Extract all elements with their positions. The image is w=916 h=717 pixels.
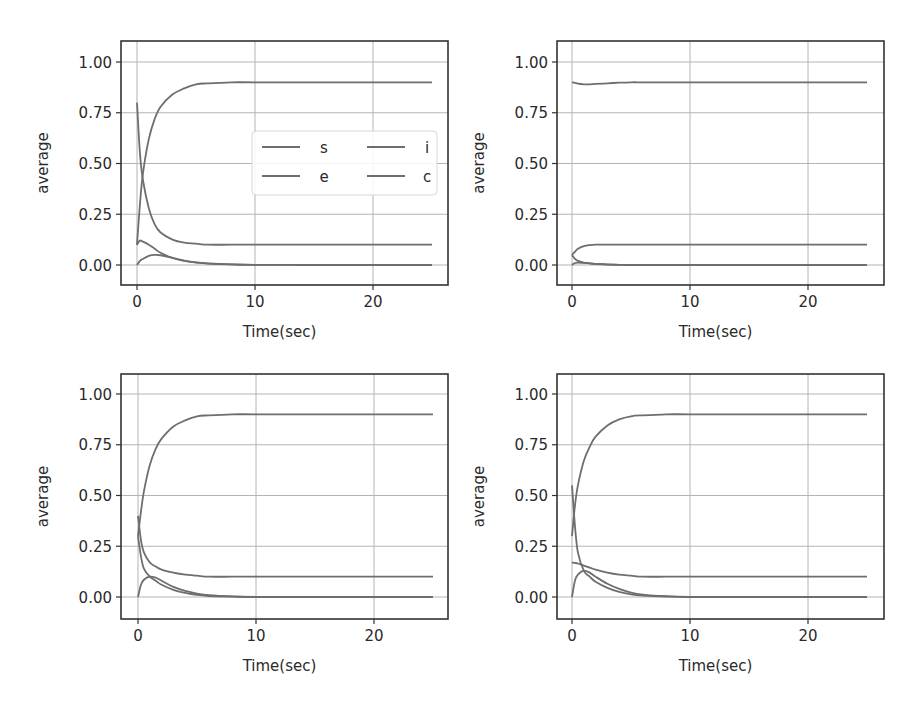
y-axis-label: average bbox=[470, 132, 488, 193]
y-tick-label: 0.75 bbox=[79, 436, 112, 454]
x-tick-label: 0 bbox=[133, 627, 143, 645]
y-tick-label: 0.50 bbox=[79, 155, 112, 173]
y-axis-label: average bbox=[34, 132, 52, 193]
y-tick-label: 1.00 bbox=[515, 54, 548, 72]
x-tick-label: 10 bbox=[245, 293, 264, 311]
y-tick-label: 1.00 bbox=[79, 54, 112, 72]
x-tick-label: 10 bbox=[246, 627, 265, 645]
y-tick-label: 1.00 bbox=[79, 386, 112, 404]
x-axis-label: Time(sec) bbox=[678, 657, 753, 675]
x-tick-label: 20 bbox=[798, 627, 817, 645]
x-tick-label: 10 bbox=[680, 627, 699, 645]
y-tick-label: 0.25 bbox=[515, 206, 548, 224]
x-tick-label: 0 bbox=[567, 293, 577, 311]
x-tick-label: 0 bbox=[567, 627, 577, 645]
y-axis-label: average bbox=[470, 466, 488, 527]
legend-label-i: i bbox=[425, 139, 429, 157]
figure: 010200.000.250.500.751.00Time(sec)averag… bbox=[0, 0, 916, 717]
x-tick-label: 0 bbox=[132, 293, 142, 311]
x-axis-label: Time(sec) bbox=[678, 323, 753, 341]
x-axis-label: Time(sec) bbox=[242, 657, 317, 675]
legend-box bbox=[252, 131, 437, 195]
y-axis-label: average bbox=[34, 466, 52, 527]
legend: siec bbox=[252, 131, 437, 195]
y-tick-label: 0.50 bbox=[515, 155, 548, 173]
y-tick-label: 0.00 bbox=[79, 257, 112, 275]
y-tick-label: 0.75 bbox=[515, 104, 548, 122]
y-tick-label: 1.00 bbox=[515, 386, 548, 404]
x-tick-label: 20 bbox=[798, 293, 817, 311]
x-tick-label: 20 bbox=[364, 627, 383, 645]
legend-label-s: s bbox=[320, 139, 328, 157]
y-tick-label: 0.25 bbox=[79, 538, 112, 556]
y-tick-label: 0.75 bbox=[515, 436, 548, 454]
y-tick-label: 0.50 bbox=[79, 487, 112, 505]
y-tick-label: 0.75 bbox=[79, 104, 112, 122]
y-tick-label: 0.00 bbox=[515, 257, 548, 275]
y-tick-label: 0.00 bbox=[515, 589, 548, 607]
legend-label-e: e bbox=[319, 168, 328, 186]
x-tick-label: 10 bbox=[680, 293, 699, 311]
y-tick-label: 0.00 bbox=[79, 589, 112, 607]
y-tick-label: 0.25 bbox=[79, 206, 112, 224]
y-tick-label: 0.50 bbox=[515, 487, 548, 505]
legend-label-c: c bbox=[423, 168, 431, 186]
x-axis-label: Time(sec) bbox=[242, 323, 317, 341]
y-tick-label: 0.25 bbox=[515, 538, 548, 556]
x-tick-label: 20 bbox=[363, 293, 382, 311]
